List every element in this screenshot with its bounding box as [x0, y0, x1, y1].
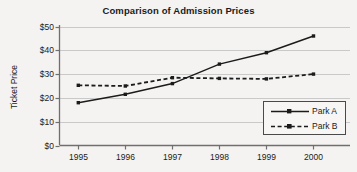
data-point-park-b [312, 72, 315, 75]
data-point-park-b [171, 76, 174, 79]
data-point-park-a [77, 101, 80, 104]
data-point-park-a [171, 82, 174, 85]
legend-item-park-a[interactable]: Park A [264, 104, 347, 119]
data-point-park-b [124, 84, 127, 87]
series-line-park-a [78, 36, 313, 103]
data-point-park-b [218, 77, 221, 80]
plot-area [0, 0, 357, 172]
legend-swatch-park-a [269, 104, 311, 119]
data-point-park-b [77, 84, 80, 87]
legend-label-park-a: Park A [312, 106, 337, 116]
data-point-park-a [312, 34, 315, 37]
legend-swatch-park-b [269, 119, 311, 134]
legend: Park A Park B [263, 101, 346, 135]
legend-item-park-b[interactable]: Park B [264, 119, 347, 134]
legend-label-park-b: Park B [312, 121, 338, 131]
data-point-park-b [265, 77, 268, 80]
series-line-park-b [78, 74, 313, 86]
data-point-park-a [218, 62, 221, 65]
data-series-layer [77, 34, 316, 104]
data-point-park-a [124, 93, 127, 96]
data-point-park-a [265, 51, 268, 54]
admission-prices-chart: Comparison of Admission Prices Ticket Pr… [0, 0, 357, 172]
